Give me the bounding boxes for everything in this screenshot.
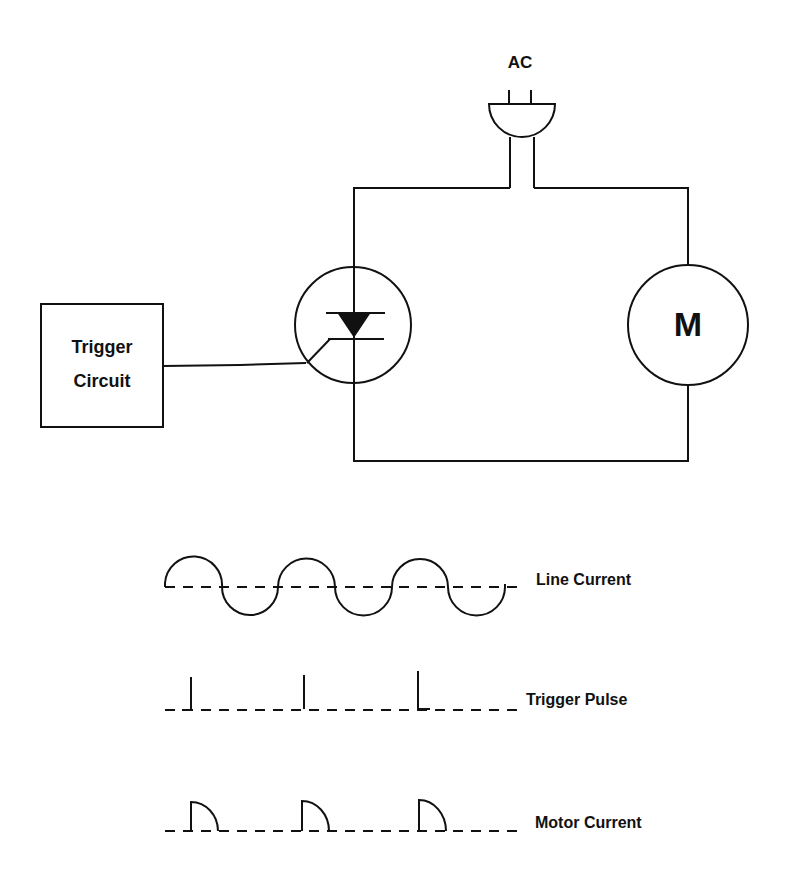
trigger-circuit-box bbox=[41, 304, 163, 427]
motor-label: M bbox=[674, 305, 702, 343]
line-current-waveform bbox=[165, 556, 520, 615]
scr-motor-control-diagram: AC Trigger Circuit M Line Current Trigge… bbox=[0, 0, 794, 893]
gate-wire bbox=[163, 363, 306, 366]
thyristor-icon bbox=[295, 262, 411, 390]
trigger-circuit-label-line2: Circuit bbox=[73, 371, 130, 391]
motor-current-waveform bbox=[165, 800, 520, 831]
ac-plug-icon bbox=[489, 90, 555, 188]
trigger-circuit-label-line1: Trigger bbox=[71, 337, 132, 357]
ac-label: AC bbox=[508, 53, 533, 72]
trigger-pulse-waveform bbox=[165, 671, 518, 710]
motor-current-label: Motor Current bbox=[535, 814, 642, 831]
circuit-wires bbox=[354, 188, 688, 461]
line-current-label: Line Current bbox=[536, 571, 632, 588]
trigger-pulse-label: Trigger Pulse bbox=[526, 691, 627, 708]
